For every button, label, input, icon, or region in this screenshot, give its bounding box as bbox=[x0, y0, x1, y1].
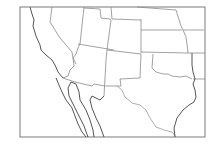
rio-grande bbox=[117, 86, 176, 137]
missouri-river-border bbox=[176, 10, 188, 53]
arizona-california-river bbox=[63, 58, 74, 78]
nevada-utah-border bbox=[73, 7, 84, 58]
gulf-coastline bbox=[174, 53, 196, 137]
colorado-new-mexico-border bbox=[107, 50, 141, 54]
california-nevada-border bbox=[50, 7, 76, 64]
new-mexico-texas-border bbox=[117, 54, 141, 86]
wyoming-nebraska-border bbox=[111, 7, 141, 20]
oklahoma-panhandle-border bbox=[152, 54, 192, 79]
kansas-oklahoma-border bbox=[141, 52, 188, 53]
pacific-coastline bbox=[30, 7, 63, 78]
utah-colorado-border bbox=[100, 9, 111, 50]
arizona-new-mexico-border bbox=[104, 50, 107, 96]
map-canvas bbox=[0, 0, 212, 157]
utah-arizona-border bbox=[78, 44, 114, 50]
baja-california-coast-inner bbox=[68, 82, 94, 137]
mexico-mainland-coast bbox=[90, 96, 104, 137]
outline-map bbox=[0, 0, 212, 157]
baja-california-coast-outer bbox=[56, 78, 86, 137]
colorado-wyoming-border bbox=[84, 8, 100, 9]
